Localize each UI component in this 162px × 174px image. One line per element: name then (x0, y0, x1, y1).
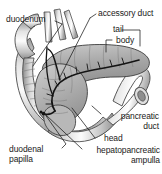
label-pancreatic-duct: pancreatic duct (97, 112, 159, 131)
anatomy-figure: duodenum accessory duct tail body pancre… (0, 0, 162, 174)
label-duodenum: duodenum (6, 15, 45, 25)
label-duodenal-papilla: duodenal papilla (9, 145, 43, 164)
duodenal-papilla-marker (40, 111, 43, 114)
label-head: head (104, 134, 123, 144)
label-body: body (116, 36, 134, 46)
leader-accessory-duct-tick (90, 14, 96, 18)
label-duodenal-papilla-line2: papilla (9, 155, 43, 165)
artery-tube (64, 10, 78, 39)
label-accessory-duct: accessory duct (98, 9, 153, 19)
label-pancreatic-duct-line2: duct (97, 122, 159, 132)
label-hepatopancreatic-ampulla: hepatopancreatic ampulla (76, 146, 160, 165)
label-hepatopancreatic-ampulla-line2: ampulla (76, 156, 160, 166)
label-tail: tail (113, 25, 123, 35)
